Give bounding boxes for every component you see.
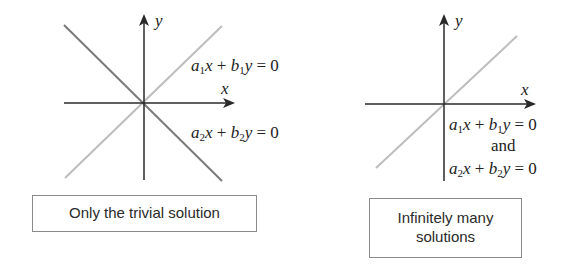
right-caption-line-1: Infinitely many (398, 209, 494, 228)
eq-coef-b: b (489, 115, 498, 134)
right-caption-line-2: solutions (416, 228, 475, 247)
eq-coef-b: b (231, 56, 240, 75)
eq-coef-a: a (449, 159, 458, 178)
right-equation-2: a2x + b2y = 0 (449, 160, 537, 177)
eq-var-x: x (463, 115, 471, 134)
right-y-axis-label: y (455, 12, 463, 29)
eq-coef-a: a (449, 115, 458, 134)
eq-var-x: x (205, 56, 213, 75)
eq-rhs: = 0 (252, 56, 279, 75)
figure: y x a1x + b1y = 0 a2x + b2y = 0 Only the… (0, 0, 586, 271)
eq-var-x: x (463, 159, 471, 178)
left-graph (64, 16, 233, 181)
eq-plus: + (213, 123, 231, 142)
left-caption-text: Only the trivial solution (69, 204, 220, 223)
right-caption-box: Infinitely many solutions (369, 198, 522, 258)
eq-coef-a: a (191, 123, 200, 142)
right-x-axis-label: x (521, 81, 529, 98)
eq-rhs: = 0 (510, 159, 537, 178)
eq-rhs: = 0 (510, 115, 537, 134)
eq-plus: + (471, 115, 489, 134)
eq-coef-b: b (489, 159, 498, 178)
right-equation-1: a1x + b1y = 0 (449, 116, 537, 133)
left-equation-2: a2x + b2y = 0 (191, 124, 279, 141)
left-x-axis-label: x (221, 80, 229, 97)
eq-rhs: = 0 (252, 123, 279, 142)
eq-coef-a: a (191, 56, 200, 75)
left-caption-box: Only the trivial solution (32, 195, 257, 232)
right-graph (365, 16, 534, 181)
left-equation-1: a1x + b1y = 0 (191, 57, 279, 74)
eq-plus: + (213, 56, 231, 75)
eq-coef-b: b (231, 123, 240, 142)
right-conjunction: and (491, 137, 516, 154)
eq-plus: + (471, 159, 489, 178)
left-y-axis-label: y (155, 12, 163, 29)
eq-var-x: x (205, 123, 213, 142)
